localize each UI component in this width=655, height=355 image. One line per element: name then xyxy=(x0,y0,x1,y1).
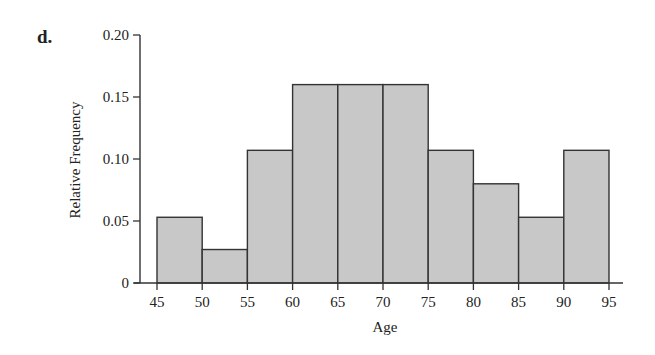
x-tick-label: 70 xyxy=(376,294,391,310)
y-tick-label: 0.15 xyxy=(103,89,129,105)
y-tick-label: 0 xyxy=(122,275,130,291)
histogram-bar xyxy=(293,85,338,283)
histogram-bar xyxy=(157,217,202,283)
x-tick-label: 55 xyxy=(240,294,255,310)
histogram-bar xyxy=(383,85,428,283)
histogram-bar xyxy=(247,150,292,283)
y-tick-label: 0.10 xyxy=(103,151,129,167)
y-tick-label: 0.20 xyxy=(103,27,129,43)
x-tick-label: 75 xyxy=(421,294,436,310)
x-tick-label: 80 xyxy=(466,294,481,310)
x-axis-label: Age xyxy=(373,319,398,335)
x-tick-label: 90 xyxy=(556,294,571,310)
histogram-bar xyxy=(519,217,564,283)
histogram-bar xyxy=(564,150,609,283)
histogram-chart: 00.050.100.150.204550556065707580859095A… xyxy=(0,0,655,355)
histogram-bar xyxy=(428,150,473,283)
y-tick-label: 0.05 xyxy=(103,213,129,229)
x-tick-label: 45 xyxy=(150,294,165,310)
histogram-bar xyxy=(338,85,383,283)
x-tick-label: 85 xyxy=(511,294,526,310)
x-tick-label: 50 xyxy=(195,294,210,310)
x-tick-label: 95 xyxy=(602,294,617,310)
histogram-bar xyxy=(202,250,247,283)
y-axis-label: Relative Frequency xyxy=(67,101,83,219)
x-tick-label: 65 xyxy=(330,294,345,310)
histogram-bar xyxy=(473,184,518,283)
x-tick-label: 60 xyxy=(285,294,300,310)
